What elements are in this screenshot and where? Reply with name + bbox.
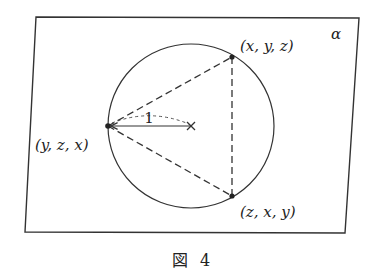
radius-label: 1 bbox=[144, 109, 154, 127]
point-bottom bbox=[229, 193, 234, 198]
edge-left-bottom bbox=[108, 126, 232, 196]
figure-canvas: 1 α (x, y, z) (y, z, x) (z, x, y) 図 4 bbox=[0, 0, 373, 272]
point-left-label: (y, z, x) bbox=[35, 136, 89, 154]
point-left bbox=[105, 123, 111, 129]
point-top-label: (x, y, z) bbox=[240, 37, 294, 55]
plane-label: α bbox=[331, 25, 341, 43]
caption-glyph: 図 bbox=[172, 251, 188, 270]
point-top bbox=[229, 54, 234, 59]
edge-left-top bbox=[108, 57, 232, 126]
caption: 図 4 bbox=[172, 251, 210, 270]
caption-number: 4 bbox=[200, 251, 210, 270]
point-bottom-label: (z, x, y) bbox=[240, 203, 296, 221]
